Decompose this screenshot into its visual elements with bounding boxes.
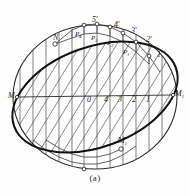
axis-tick-label-4: 4 (104, 96, 108, 104)
endpoint-label-n: N (53, 34, 58, 42)
geometric-figure: 5' 4' 3' 2' 1' P4 P3 P2 P1 M M1 N M1' 0 … (0, 0, 190, 196)
upper-chord-polyline (55, 24, 160, 72)
endpoint-label-m1-prime: M1' (118, 137, 128, 145)
endpoint-label-m1: M1 (175, 90, 184, 98)
axis-tick-label-3: 3 (118, 96, 122, 104)
p-point-label-p2: P2 (107, 40, 113, 47)
axis-tick-label-0: 0 (87, 96, 91, 104)
p-point-label-p1: P1 (123, 49, 129, 56)
primed-point-label-1prime: 1' (157, 51, 162, 59)
axis-tick-label-1: 1 (146, 96, 150, 104)
axis-tick-label-2: 2 (132, 96, 136, 104)
hatch-pattern-group (0, 0, 190, 196)
primed-point-label-5prime: 5' (92, 16, 97, 24)
primed-point-label-4prime: 4' (114, 21, 119, 29)
figure-drawing (0, 0, 190, 196)
p-point-label-p4: P4 (75, 31, 81, 38)
endpoint-label-m: M (8, 92, 14, 100)
primed-point-label-2prime: 2' (146, 36, 151, 44)
p-point-label-p3: P3 (91, 35, 97, 42)
primed-point-label-3prime: 3' (131, 27, 136, 35)
figure-caption: (a) (0, 173, 190, 183)
